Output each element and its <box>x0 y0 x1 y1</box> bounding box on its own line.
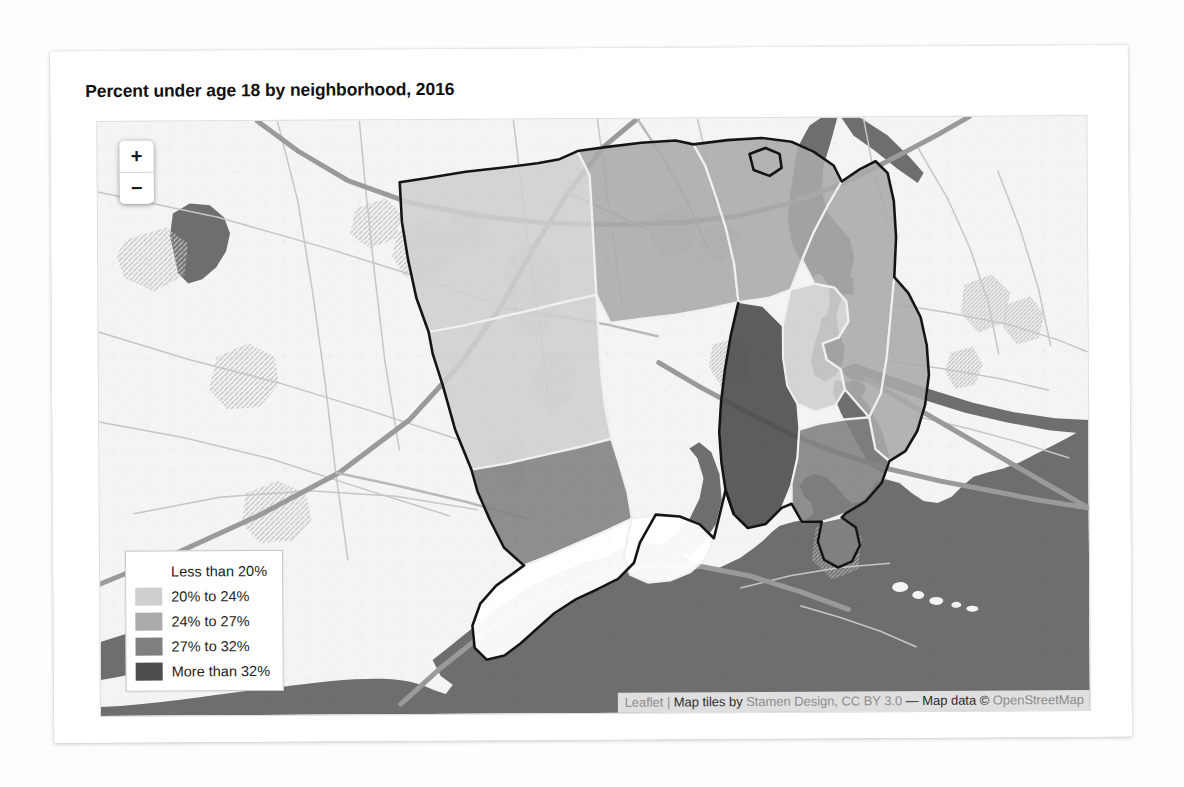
legend-swatch-4 <box>136 662 163 680</box>
legend-swatch-3 <box>135 637 162 655</box>
legend-item: 20% to 24% <box>135 583 269 609</box>
page-title: Percent under age 18 by neighborhood, 20… <box>85 79 454 102</box>
legend-swatch-2 <box>135 612 162 630</box>
legend-label-1: 20% to 24% <box>171 588 249 604</box>
attribution-tiles-by: Map tiles by <box>674 694 746 709</box>
copyright-icon: © <box>980 693 993 708</box>
attribution-dash: — <box>902 693 922 708</box>
page-root: Percent under age 18 by neighborhood, 20… <box>0 0 1184 787</box>
legend-label-2: 24% to 27% <box>171 613 249 629</box>
legend-swatch-1 <box>135 587 162 605</box>
legend-item: Less than 20% <box>135 558 269 584</box>
attribution-leaflet-link[interactable]: Leaflet <box>625 695 664 710</box>
legend-item: 27% to 32% <box>135 633 269 659</box>
zoom-in-button[interactable]: + <box>119 141 153 172</box>
zoom-control[interactable]: + − <box>119 141 153 204</box>
legend-label-3: 27% to 32% <box>171 638 249 654</box>
legend-item: 24% to 27% <box>135 608 269 634</box>
attribution-map-data: Map data <box>922 693 979 708</box>
leaflet-map[interactable]: + − Less than 20% 20% to 24% 24% to 27% <box>96 115 1091 717</box>
map-attribution: Leaflet | Map tiles by Stamen Design, CC… <box>618 690 1090 713</box>
attribution-separator: | <box>663 695 674 710</box>
zoom-out-button[interactable]: − <box>120 172 154 204</box>
legend-swatch-0 <box>135 562 162 580</box>
map-legend: Less than 20% 20% to 24% 24% to 27% 27% … <box>125 550 284 692</box>
attribution-osm-link[interactable]: OpenStreetMap <box>993 692 1084 708</box>
legend-label-4: More than 32% <box>172 662 270 679</box>
map-card: Percent under age 18 by neighborhood, 20… <box>50 45 1132 744</box>
legend-label-0: Less than 20% <box>171 562 267 579</box>
attribution-stamen-link[interactable]: Stamen Design, CC BY 3.0 <box>746 693 902 709</box>
legend-item: More than 32% <box>136 658 270 684</box>
